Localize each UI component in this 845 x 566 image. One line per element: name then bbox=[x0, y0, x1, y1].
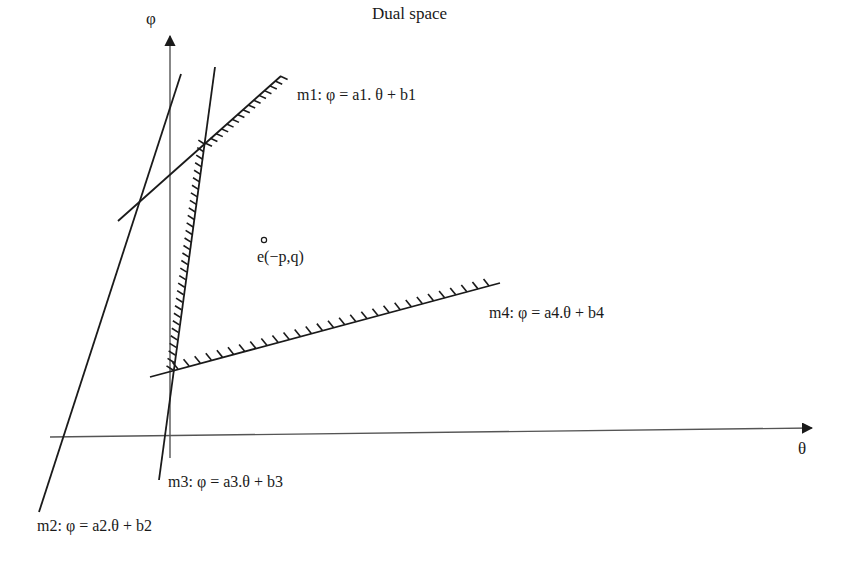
line-m4 bbox=[150, 283, 500, 377]
label-m4: m4: φ = a4.θ + b4 bbox=[489, 305, 604, 321]
diagram-title: Dual space bbox=[372, 5, 447, 22]
label-m2: m2: φ = a2.θ + b2 bbox=[37, 518, 152, 534]
line-m2 bbox=[39, 74, 181, 512]
hatching-m1 bbox=[205, 76, 288, 146]
hatching-m3 bbox=[167, 140, 205, 370]
phi-axis-label: φ bbox=[146, 10, 156, 27]
hatching-m4 bbox=[172, 279, 489, 369]
dual-space-diagram bbox=[0, 0, 845, 566]
point-e-label: e(−p,q) bbox=[257, 249, 304, 265]
label-m1: m1: φ = a1. θ + b1 bbox=[297, 87, 416, 103]
theta-axis-label: θ bbox=[798, 440, 806, 457]
line-m3 bbox=[159, 67, 215, 480]
label-m3: m3: φ = a3.θ + b3 bbox=[168, 474, 283, 490]
point-e-marker bbox=[261, 237, 266, 242]
